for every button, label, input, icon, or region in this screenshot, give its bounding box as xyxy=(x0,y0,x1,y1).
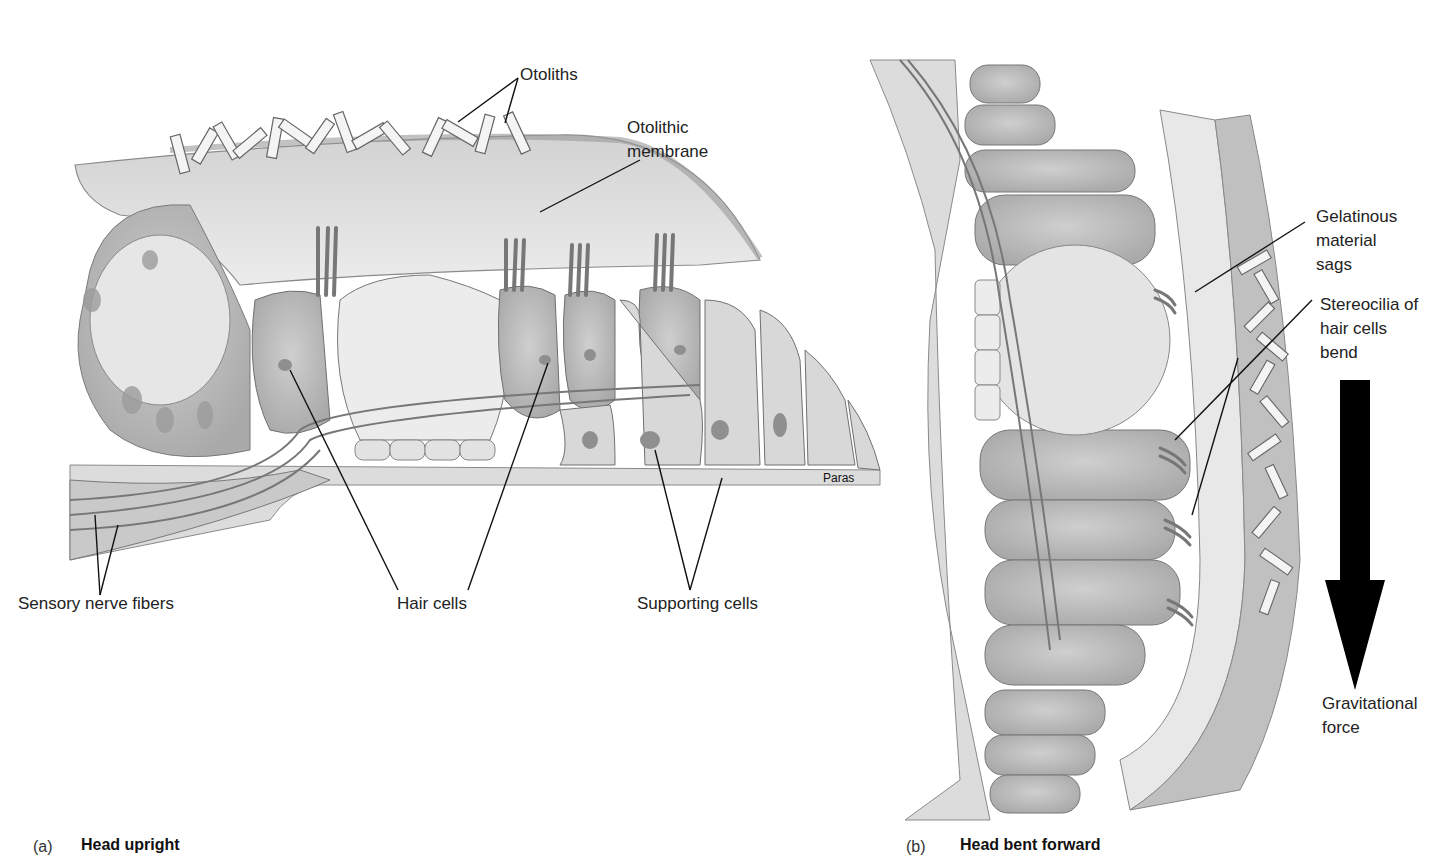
label-supporting-cells: Supporting cells xyxy=(637,592,758,616)
caption-a-title: Head upright xyxy=(81,836,180,854)
label-sensory-nerve-fibers: Sensory nerve fibers xyxy=(18,592,174,616)
label-gravitational-force: Gravitational force xyxy=(1322,692,1417,740)
caption-a-letter: (a) xyxy=(33,838,53,856)
label-gelatinous-material: Gelatinous material sags xyxy=(1316,205,1397,277)
panel-b-illustration xyxy=(870,60,1385,820)
macula-diagram xyxy=(0,0,1450,861)
gravity-arrow-icon xyxy=(1325,380,1385,690)
caption-b-letter: (b) xyxy=(906,838,926,856)
label-otolithic-membrane: Otolithic membrane xyxy=(627,116,708,164)
label-otoliths: Otoliths xyxy=(520,63,578,87)
label-hair-cells: Hair cells xyxy=(397,592,467,616)
label-stereocilia: Stereocilia of hair cells bend xyxy=(1320,293,1418,365)
artist-signature: Paras xyxy=(823,471,854,485)
panel-a-illustration xyxy=(70,78,880,595)
caption-b-title: Head bent forward xyxy=(960,836,1100,854)
